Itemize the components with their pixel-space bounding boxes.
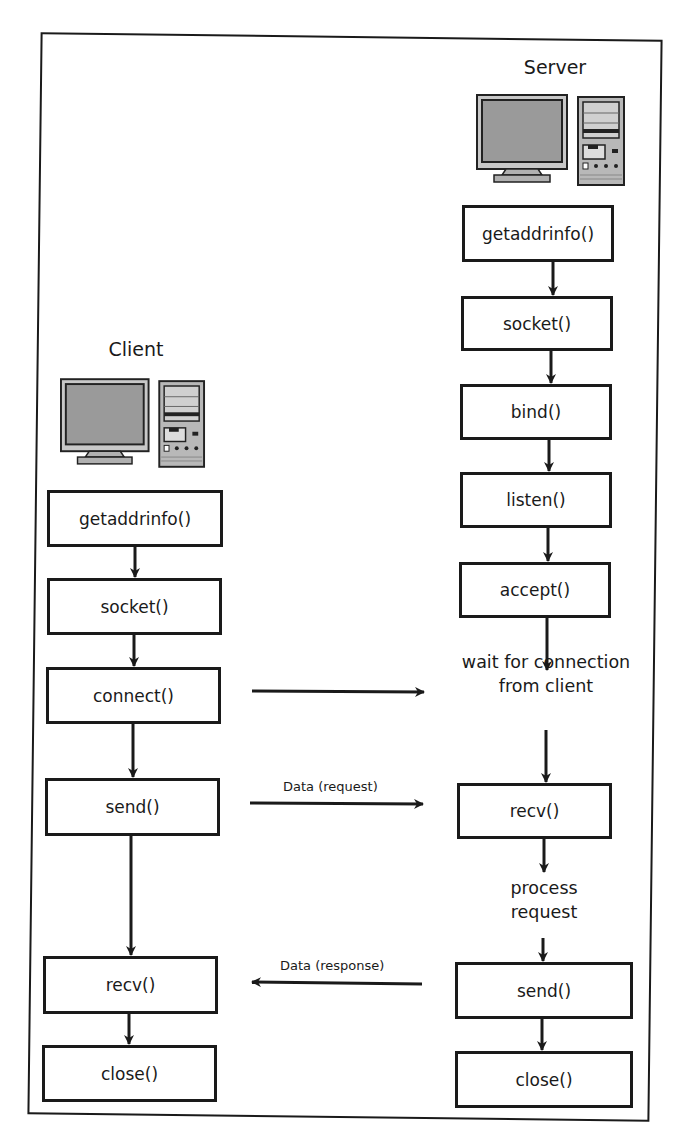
flow-arrows xyxy=(0,0,681,1144)
